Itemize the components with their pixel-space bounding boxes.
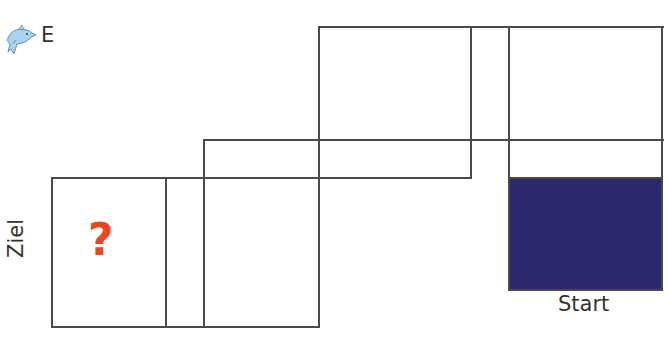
grid-line (508, 289, 663, 291)
grid-line (661, 26, 663, 290)
grid-line (51, 326, 320, 328)
grid-line (508, 177, 663, 179)
question-mark-icon: ? (88, 218, 114, 262)
grid-line (203, 139, 205, 328)
grid-line (51, 177, 53, 328)
grid-line (165, 177, 167, 328)
start-cell (510, 178, 662, 290)
dolphin-icon (5, 24, 37, 58)
grid-line (508, 26, 510, 290)
grid-line (470, 26, 472, 178)
grid-line (318, 26, 664, 28)
goal-label: Ziel (6, 219, 27, 258)
start-label: Start (558, 294, 609, 315)
grid-line (203, 139, 664, 141)
exercise-label: E (41, 25, 54, 46)
grid-line (51, 177, 472, 179)
